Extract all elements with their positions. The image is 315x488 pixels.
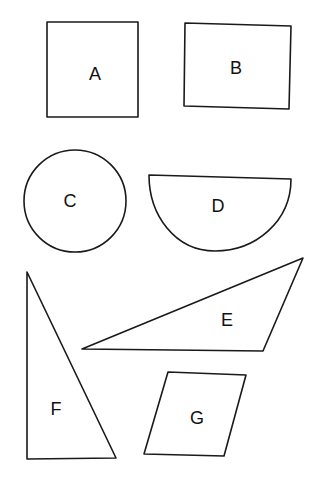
shape-d: D [149,175,291,251]
shape-g-label: G [190,408,204,428]
shapes-diagram: A B C D E F G [0,0,315,488]
shape-c-label: C [64,191,77,211]
shape-e-label: E [221,310,233,330]
triangle-e-outline [82,258,303,351]
triangle-f-outline [27,272,116,459]
shape-b-label: B [230,58,242,78]
shape-c: C [24,150,126,252]
shape-b: B [184,23,291,109]
shape-f-label: F [51,399,62,419]
shape-f: F [27,272,116,459]
shape-g: G [144,372,246,456]
shape-e: E [82,258,303,351]
shape-a-label: A [89,64,101,84]
shape-d-label: D [212,196,225,216]
shape-a: A [47,22,138,117]
